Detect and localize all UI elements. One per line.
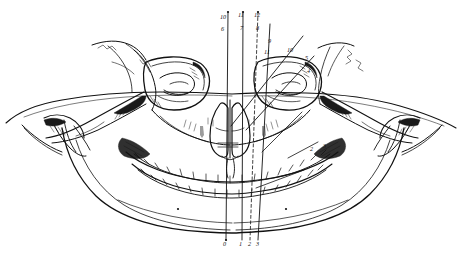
mandibular-body xyxy=(62,128,404,233)
label-5-right: 5 xyxy=(305,54,308,61)
label-0-bottom: 0 xyxy=(223,240,227,247)
line-2 xyxy=(250,12,258,240)
left-orbit xyxy=(144,57,210,110)
maxilla-upper-teeth xyxy=(126,150,338,183)
label-10-top: 10 xyxy=(220,13,227,20)
label-4-right: 4 xyxy=(307,67,310,74)
label-11-right: 11 xyxy=(264,48,270,55)
label-1-bottom: 1 xyxy=(239,240,242,247)
label-3-mid: 3 xyxy=(322,142,326,149)
label-2-mid: 2 xyxy=(310,145,313,152)
label-11-top: 11 xyxy=(238,11,244,18)
label-group-top: 10 11 12 6 7 8 xyxy=(220,11,260,32)
nasal-aperture xyxy=(210,100,250,160)
label-2-bottom: 2 xyxy=(248,240,251,247)
skull-engraving: 10 11 12 6 7 8 9 11 10 5 4 2 3 0 1 2 3 xyxy=(0,0,464,254)
label-10-right: 10 xyxy=(287,46,294,53)
label-9-right: 9 xyxy=(268,37,271,44)
mandible-lower-teeth xyxy=(132,164,332,198)
line-1 xyxy=(242,12,243,240)
label-3-bottom: 3 xyxy=(255,240,259,247)
anatomical-figure: 10 11 12 6 7 8 9 11 10 5 4 2 3 0 1 2 3 xyxy=(0,0,464,254)
line-6-pointer xyxy=(262,112,302,152)
mental-foramen-right xyxy=(285,208,287,210)
line-3 xyxy=(258,24,270,240)
vomer xyxy=(227,158,235,178)
reference-lines xyxy=(218,11,318,241)
label-12-top: 12 xyxy=(254,11,260,18)
label-6-top: 6 xyxy=(221,25,225,32)
right-orbit xyxy=(254,57,322,110)
label-7-top: 7 xyxy=(240,24,244,31)
line-7-pointer xyxy=(288,142,318,158)
mental-foramen-left xyxy=(177,208,179,210)
label-group-bottom: 0 1 2 3 xyxy=(223,240,259,247)
occipital-contour xyxy=(6,92,456,128)
label-8-top: 8 xyxy=(256,24,260,31)
